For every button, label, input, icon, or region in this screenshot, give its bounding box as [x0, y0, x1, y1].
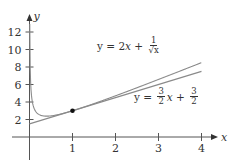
- chart: xy123424681012 y = 2x + 1√x y = 32x + 32: [0, 0, 229, 166]
- eq2-den2: 2: [191, 97, 196, 106]
- x-tick-label: 3: [155, 142, 162, 155]
- y-axis-label: y: [33, 10, 41, 23]
- plot-area: xy123424681012: [0, 0, 229, 166]
- y-tick-label: 6: [15, 79, 22, 92]
- y-tick-label: 8: [15, 61, 22, 74]
- x-tick-label: 2: [112, 142, 119, 155]
- x-tick-label: 4: [198, 142, 205, 155]
- y-tick-label: 2: [15, 114, 22, 127]
- eq2-plus: +: [173, 91, 188, 103]
- tangent-equation-label: y = 32x + 32: [134, 87, 200, 106]
- eq1-den: √x: [149, 46, 159, 55]
- y-axis-arrow-icon: [27, 14, 33, 21]
- eq1-plus: +: [131, 40, 146, 52]
- eq2-fraction-2: 32: [190, 87, 197, 106]
- eq1-lhs: y = 2: [97, 40, 125, 52]
- y-tick-label: 10: [8, 44, 22, 57]
- x-axis-label: x: [221, 131, 228, 144]
- eq2-lhs: y =: [134, 91, 155, 103]
- curve-equation-label: y = 2x + 1√x: [97, 36, 161, 55]
- tangency-point: [70, 108, 75, 113]
- y-tick-label: 12: [8, 26, 22, 39]
- x-axis-arrow-icon: [211, 134, 218, 140]
- eq2-fraction-1: 32: [157, 87, 164, 106]
- eq1-fraction: 1√x: [149, 36, 159, 55]
- x-tick-label: 1: [69, 142, 76, 155]
- y-tick-label: 4: [15, 96, 22, 109]
- eq2-den1: 2: [158, 97, 163, 106]
